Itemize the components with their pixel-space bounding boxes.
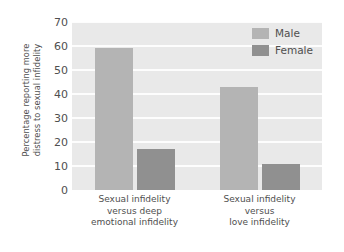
- legend-item-male: Male: [252, 28, 313, 39]
- x-category-label-1: Sexual infidelity versus deep emotional …: [72, 194, 197, 229]
- y-tick-label-50: 50: [38, 65, 68, 76]
- y-axis-tick-labels: 010203040506070: [38, 0, 68, 252]
- bar-male-group-2: [220, 87, 258, 190]
- y-tick-label-60: 60: [38, 41, 68, 52]
- x-axis-category-labels: Sexual infidelity versus deep emotional …: [72, 194, 322, 242]
- x-category-label-2: Sexual infidelity versus love infidelity: [197, 194, 322, 229]
- legend-swatch-female-icon: [252, 45, 269, 56]
- y-tick-label-10: 10: [38, 161, 68, 172]
- legend-swatch-male-icon: [252, 28, 269, 39]
- plot-area: Male Female: [72, 22, 322, 190]
- legend-label-male: Male: [275, 28, 300, 39]
- bar-female-group-1: [137, 149, 175, 190]
- y-tick-label-20: 20: [38, 137, 68, 148]
- legend-label-female: Female: [275, 45, 313, 56]
- y-tick-label-30: 30: [38, 113, 68, 124]
- legend-item-female: Female: [252, 45, 313, 56]
- y-tick-label-70: 70: [38, 17, 68, 28]
- legend: Male Female: [252, 28, 313, 56]
- y-tick-label-0: 0: [38, 185, 68, 196]
- bar-male-group-1: [95, 48, 133, 190]
- gridline-70: [72, 22, 322, 23]
- y-tick-label-40: 40: [38, 89, 68, 100]
- bar-female-group-2: [262, 164, 300, 190]
- bar-chart-figure: Percentage reporting more distress to se…: [0, 0, 344, 252]
